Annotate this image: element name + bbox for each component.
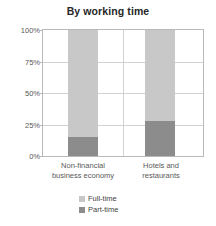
bar-segment-full-time[interactable] — [68, 30, 98, 137]
y-tick-label-25: 25% — [2, 120, 40, 129]
y-axis: 100% 75% 50% 25% 0% — [0, 29, 40, 156]
chart-container: By working time 100% 75% 50% 25% 0% Non — [0, 0, 216, 226]
bar-segment-part-time[interactable] — [68, 137, 98, 156]
legend-item-part-time[interactable]: Part-time — [79, 205, 137, 214]
bar-segment-part-time[interactable] — [145, 121, 175, 156]
chart-title: By working time — [0, 5, 216, 17]
legend-swatch-icon — [79, 207, 85, 213]
x-tick-label-line-2: restaurants — [115, 171, 207, 181]
bar-stack-hotels-and-restaurants[interactable] — [145, 30, 175, 156]
bar-stack-non-financial-business-economy[interactable] — [68, 30, 98, 156]
legend-item-full-time[interactable]: Full-time — [79, 194, 137, 203]
plot-area — [42, 29, 204, 157]
x-tick-label-line-1: Hotels and — [115, 161, 207, 171]
chart-legend: Full-time Part-time — [0, 194, 216, 214]
y-tick-label-50: 50% — [2, 89, 40, 98]
y-tick-label-100: 100% — [2, 26, 40, 35]
x-tick-label-hotels-and-restaurants: Hotels and restaurants — [115, 161, 207, 181]
y-tick-label-75: 75% — [2, 57, 40, 66]
legend-label: Part-time — [88, 205, 118, 214]
y-tick-label-0: 0% — [2, 152, 40, 161]
bar-segment-full-time[interactable] — [145, 30, 175, 121]
legend-label: Full-time — [88, 194, 117, 203]
category-divider — [123, 30, 124, 156]
legend-swatch-icon — [79, 196, 85, 202]
